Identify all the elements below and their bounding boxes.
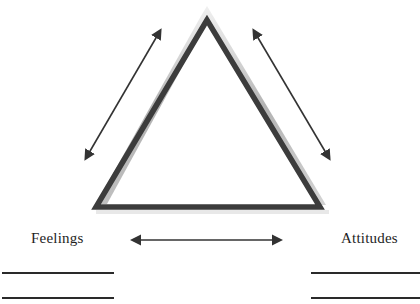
arrow-left-diagonal (86, 31, 160, 158)
triangle-diagram (0, 0, 420, 304)
feelings-label: Feelings (31, 230, 83, 247)
answer-line-left-1[interactable] (2, 272, 114, 274)
attitudes-label: Attitudes (341, 230, 398, 247)
answer-line-right-1[interactable] (311, 272, 420, 274)
answer-line-left-2[interactable] (2, 297, 114, 299)
triangle-glow (96, 6, 329, 214)
answer-line-right-2[interactable] (311, 297, 420, 299)
arrow-right-diagonal (254, 31, 329, 158)
triangle-outline (96, 20, 320, 207)
